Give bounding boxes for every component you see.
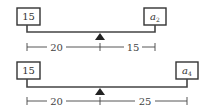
left-weight-label: 15 <box>22 65 35 76</box>
balance-diagram-1: 15 a2 20 15 <box>17 8 166 53</box>
balance-diagram-2: 15 a4 20 25 <box>17 62 198 107</box>
beam <box>27 25 155 32</box>
balance-diagrams: 15 a2 20 15 15 a4 20 25 <box>0 0 211 111</box>
fulcrum <box>95 33 105 40</box>
fulcrum <box>95 88 105 95</box>
left-weight-label: 15 <box>22 11 35 22</box>
beam <box>27 79 187 87</box>
right-distance-label: 25 <box>139 96 152 107</box>
right-distance-label: 15 <box>127 42 140 53</box>
left-distance-label: 20 <box>50 96 63 107</box>
left-distance-label: 20 <box>50 42 63 53</box>
